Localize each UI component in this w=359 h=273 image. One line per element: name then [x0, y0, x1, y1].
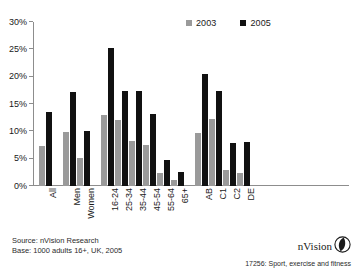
- bar-2005-DE: [244, 142, 250, 186]
- branding: nVision 17256: Sport, exercise and fitne…: [245, 236, 351, 268]
- plot-area: 0%5%10%15%20%25%30%: [33, 22, 349, 186]
- x-axis-label-AB: AB: [205, 188, 214, 200]
- brand-name: nVision: [298, 241, 332, 252]
- x-axis-label-25-34: 25-34: [125, 188, 134, 211]
- bar-2005-55-64: [164, 160, 170, 186]
- bar-group: [63, 22, 77, 186]
- bar-2005-C1: [216, 91, 222, 186]
- bar-group: [157, 22, 171, 186]
- bar-2003-Men: [63, 132, 69, 186]
- bar-2003-16-24: [101, 115, 107, 186]
- bar-2003-55-64: [157, 173, 163, 186]
- y-axis-tick-label: 0%: [14, 181, 27, 190]
- bar-group: [77, 22, 91, 186]
- bar-2003-C2: [223, 170, 229, 186]
- bars-layer: [33, 22, 349, 186]
- bar-group: [143, 22, 157, 186]
- bar-group: [129, 22, 143, 186]
- bar-2005-65+: [178, 172, 184, 186]
- bar-2005-All: [46, 112, 52, 186]
- bar-2005-C2: [230, 143, 236, 186]
- bar-2005-Women: [84, 131, 90, 186]
- footnote-source: Source: nVision Research: [12, 236, 122, 246]
- bar-2003-AB: [195, 133, 201, 186]
- x-axis-label-DE: DE: [247, 188, 256, 201]
- bar-group: [237, 22, 251, 186]
- brand-code: 17256: Sport, exercise and fitness: [245, 259, 351, 268]
- bar-group: [115, 22, 129, 186]
- y-axis-tick-label: 20%: [9, 72, 27, 81]
- bar-group: [39, 22, 53, 186]
- bar-group: [195, 22, 209, 186]
- x-axis-label-All: All: [49, 188, 58, 198]
- bar-2005-35-44: [136, 91, 142, 186]
- x-axis-label-35-44: 35-44: [139, 188, 148, 211]
- x-axis-label-C1: C1: [219, 188, 228, 200]
- bar-group: [209, 22, 223, 186]
- x-axis-label-45-54: 45-54: [153, 188, 162, 211]
- brand-row: nVision: [245, 236, 351, 257]
- bar-group: [171, 22, 185, 186]
- bar-2003-Women: [77, 158, 83, 186]
- bar-2005-45-54: [150, 114, 156, 186]
- footnote-base: Base: 1000 adults 16+, UK, 2005: [12, 246, 122, 256]
- x-axis-label-Women: Women: [87, 188, 96, 219]
- nvision-leaf-logo-icon: [334, 236, 351, 257]
- bar-2003-All: [39, 146, 45, 186]
- bar-2003-DE: [237, 173, 243, 186]
- y-axis-tick-label: 5%: [14, 154, 27, 163]
- x-axis-labels: AllMenWomen16-2425-3435-4445-5455-6465+A…: [33, 188, 349, 232]
- bar-chart: 2003 2005 0%5%10%15%20%25%30% AllMenWome…: [0, 0, 359, 273]
- bar-group: [223, 22, 237, 186]
- bar-2003-35-44: [129, 141, 135, 186]
- y-axis-tick-label: 25%: [9, 44, 27, 53]
- bar-2003-65+: [171, 180, 177, 186]
- bar-2005-16-24: [108, 48, 114, 186]
- x-axis-label-55-64: 55-64: [167, 188, 176, 211]
- y-axis-tick-label: 10%: [9, 126, 27, 135]
- y-axis-tick-label: 30%: [9, 17, 27, 26]
- bar-2003-25-34: [115, 120, 121, 186]
- bar-group: [101, 22, 115, 186]
- bar-2005-AB: [202, 74, 208, 186]
- x-axis-label-Men: Men: [73, 188, 82, 206]
- x-axis-label-C2: C2: [233, 188, 242, 200]
- bar-2003-45-54: [143, 145, 149, 186]
- x-axis-label-16-24: 16-24: [111, 188, 120, 211]
- bar-2005-Men: [70, 92, 76, 186]
- bar-2003-C1: [209, 119, 215, 186]
- y-axis-tick-label: 15%: [9, 99, 27, 108]
- bar-2005-25-34: [122, 91, 128, 186]
- x-axis-label-65+: 65+: [181, 188, 190, 203]
- chart-footnotes: Source: nVision Research Base: 1000 adul…: [12, 236, 122, 256]
